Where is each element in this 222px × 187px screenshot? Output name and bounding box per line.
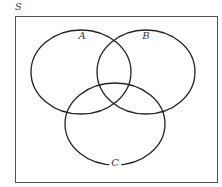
set-c-ellipse (65, 83, 165, 165)
set-a-label: A (76, 31, 87, 41)
venn-diagram: S A B C (0, 0, 222, 187)
set-b-ellipse (97, 30, 195, 114)
set-a-ellipse (31, 30, 131, 114)
set-b-label: B (140, 31, 151, 41)
universe-label: S (15, 2, 22, 12)
set-c-label: C (109, 158, 121, 168)
